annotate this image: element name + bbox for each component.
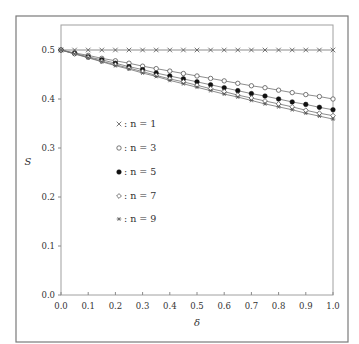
x-tick-label: 0.6 bbox=[217, 301, 231, 311]
data-point bbox=[249, 84, 253, 88]
x-tick-label: 0.8 bbox=[272, 301, 286, 311]
y-tick-label: 0.2 bbox=[41, 192, 55, 202]
y-axis-label: S bbox=[25, 156, 32, 167]
legend-label: : n = 3 bbox=[124, 142, 156, 153]
y-tick-label: 0.1 bbox=[41, 241, 55, 251]
x-tick-label: 0.7 bbox=[245, 301, 259, 311]
data-point bbox=[304, 92, 308, 96]
data-point bbox=[263, 94, 268, 99]
x-tick-label: 0.2 bbox=[109, 301, 123, 311]
data-point bbox=[331, 97, 335, 101]
data-point bbox=[154, 66, 158, 70]
x-tick-label: 0.1 bbox=[81, 301, 95, 311]
y-tick-label: 0.0 bbox=[41, 290, 55, 300]
chart-figure: 0.00.10.20.30.40.50.60.70.80.91.0 0.00.1… bbox=[0, 0, 359, 344]
legend-label: : n = 7 bbox=[124, 190, 156, 201]
x-tick-label: 0.0 bbox=[54, 301, 68, 311]
legend-label: : n = 1 bbox=[124, 118, 156, 129]
y-tick-label: 0.5 bbox=[41, 45, 55, 55]
data-point bbox=[290, 100, 295, 105]
x-axis-label: δ bbox=[194, 317, 200, 328]
data-point bbox=[276, 88, 280, 92]
data-point bbox=[168, 69, 172, 73]
data-point bbox=[331, 107, 336, 112]
x-tick-label: 0.3 bbox=[136, 301, 150, 311]
outer-frame bbox=[16, 16, 348, 342]
data-point bbox=[290, 90, 294, 94]
data-point bbox=[276, 97, 281, 102]
data-point bbox=[208, 76, 212, 80]
legend-label: : n = 9 bbox=[124, 213, 156, 224]
legend-marker-icon bbox=[117, 146, 121, 150]
x-tick-label: 0.4 bbox=[163, 301, 177, 311]
data-point bbox=[317, 105, 322, 110]
legend-label: : n = 5 bbox=[124, 166, 156, 177]
data-point bbox=[195, 74, 199, 78]
data-point bbox=[236, 81, 240, 85]
x-tick-label: 0.5 bbox=[190, 301, 204, 311]
data-point bbox=[304, 102, 309, 107]
y-tick-label: 0.3 bbox=[41, 143, 55, 153]
x-tick-label: 1.0 bbox=[326, 301, 340, 311]
data-point bbox=[222, 79, 226, 83]
legend-marker-icon bbox=[117, 170, 122, 175]
data-point bbox=[317, 94, 321, 98]
x-tick-label: 0.9 bbox=[299, 301, 313, 311]
data-point bbox=[181, 71, 185, 75]
y-tick-label: 0.4 bbox=[41, 94, 55, 104]
data-point bbox=[263, 86, 267, 90]
